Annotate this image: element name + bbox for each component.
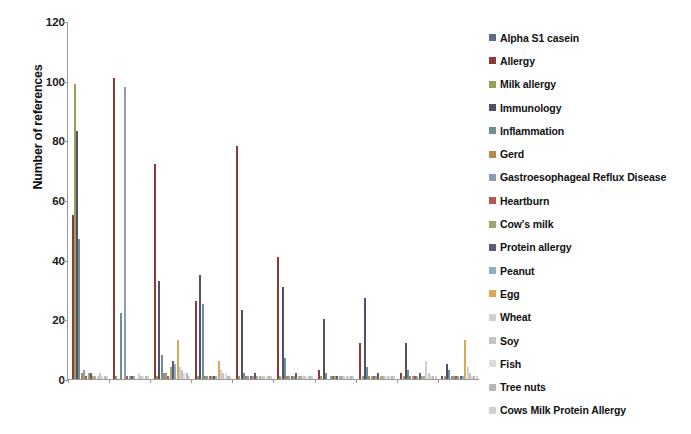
legend-swatch-icon [489, 127, 496, 134]
legend-swatch-icon [489, 104, 496, 111]
bar [393, 376, 395, 379]
legend-swatch-icon [489, 407, 496, 414]
bar [277, 257, 279, 379]
legend-swatch-icon [489, 221, 496, 228]
legend-swatch-icon [489, 174, 496, 181]
bar [236, 146, 238, 379]
bar [195, 301, 197, 379]
legend-item-gerd: Gerd [489, 142, 689, 165]
bar [78, 239, 80, 379]
legend-item-peanut: Peanut [489, 259, 689, 282]
bar [435, 376, 437, 379]
legend-swatch-icon [489, 337, 496, 344]
legend-label: Protein allergy [500, 241, 571, 253]
legend-item-soy: Soy [489, 329, 689, 352]
legend-label: Tree nuts [500, 381, 546, 393]
legend-label: Cows Milk Protein Allergy [500, 404, 626, 416]
legend-label: Fish [500, 358, 521, 370]
legend-swatch-icon [489, 151, 496, 158]
bar-group-muc5b [68, 22, 109, 379]
legend-label: Immunology [500, 102, 561, 114]
bar [115, 376, 117, 379]
legend-label: Milk allergy [500, 78, 556, 90]
bar [120, 313, 122, 379]
bar [124, 87, 126, 379]
bar [270, 376, 272, 379]
legend-swatch-icon [489, 81, 496, 88]
y-tick-label-80: 80 [21, 135, 65, 147]
legend-label: Egg [500, 288, 520, 300]
bar [147, 376, 149, 379]
legend-swatch-icon [489, 290, 496, 297]
legend-swatch-icon [489, 197, 496, 204]
legend-item-gastroesophageal-reflux-disease: Gastroesophageal Reflux Disease [489, 166, 689, 189]
x-axis-labels: MUC5BFANCD2MUC6TPSAB1MUC16MAP2K3NCOR1PRS… [67, 382, 479, 434]
legend-item-fish: Fish [489, 352, 689, 375]
bar [202, 304, 204, 379]
plot-area: 020406080100120 [67, 22, 479, 380]
legend-item-egg: Egg [489, 282, 689, 305]
y-tick-label-0: 0 [21, 374, 65, 386]
bar [106, 376, 108, 379]
legend-item-milk-allergy: Milk allergy [489, 73, 689, 96]
bar-group-muc6 [150, 22, 191, 379]
y-tick-label-20: 20 [21, 314, 65, 326]
bar [476, 376, 478, 379]
legend-label: Heartburn [500, 195, 549, 207]
bar [352, 376, 354, 379]
legend-label: Allergy [500, 55, 535, 67]
legend-item-inflammation: Inflammation [489, 119, 689, 142]
legend-swatch-icon [489, 384, 496, 391]
bar [154, 164, 156, 379]
legend-label: Alpha S1 casein [500, 32, 579, 44]
bar [311, 376, 313, 379]
legend-label: Soy [500, 335, 519, 347]
bar-group-tpsab1 [191, 22, 232, 379]
y-tick-label-40: 40 [21, 255, 65, 267]
legend-item-wheat: Wheat [489, 306, 689, 329]
legend-label: Gastroesophageal Reflux Disease [500, 171, 666, 183]
y-tick-label-120: 120 [21, 16, 65, 28]
legend-label: Cow's milk [500, 218, 553, 230]
legend-label: Peanut [500, 265, 534, 277]
legend-swatch-icon [489, 57, 496, 64]
legend-label: Wheat [500, 311, 531, 323]
legend-item-protein-allergy: Protein allergy [489, 236, 689, 259]
bar-group-muc16 [232, 22, 273, 379]
bar-group-ncor1 [315, 22, 356, 379]
legend-swatch-icon [489, 244, 496, 251]
bar [359, 343, 361, 379]
bar-group-prss1 [356, 22, 397, 379]
bar-group-aqp7 [438, 22, 479, 379]
legend-item-heartburn: Heartburn [489, 189, 689, 212]
bar-chart: Number of references 020406080100120 MUC… [0, 0, 691, 434]
legend-swatch-icon [489, 34, 496, 41]
legend-item-immunology: Immunology [489, 96, 689, 119]
bar [241, 310, 243, 379]
bar [325, 373, 327, 379]
bar [188, 376, 190, 379]
bar [323, 319, 325, 379]
legend-swatch-icon [489, 314, 496, 321]
bar-group-map2k3 [273, 22, 314, 379]
bar-group-fancd2 [109, 22, 150, 379]
legend-item-allergy: Allergy [489, 49, 689, 72]
legend-item-alpha-s1-casein: Alpha S1 casein [489, 26, 689, 49]
chart-legend: Alpha S1 caseinAllergyMilk allergyImmuno… [489, 26, 689, 422]
legend-item-cows-milk-protein-allergy: Cows Milk Protein Allergy [489, 399, 689, 422]
legend-item-cow-s-milk: Cow's milk [489, 212, 689, 235]
bar [229, 376, 231, 379]
legend-label: Gerd [500, 148, 524, 160]
legend-swatch-icon [489, 360, 496, 367]
bar [113, 78, 115, 379]
y-tick-label-60: 60 [21, 195, 65, 207]
bar-groups [68, 22, 479, 379]
bar [133, 376, 135, 379]
legend-swatch-icon [489, 267, 496, 274]
bar-group-krt18 [397, 22, 438, 379]
legend-label: Inflammation [500, 125, 564, 137]
legend-item-tree-nuts: Tree nuts [489, 375, 689, 398]
y-tick-label-100: 100 [21, 76, 65, 88]
